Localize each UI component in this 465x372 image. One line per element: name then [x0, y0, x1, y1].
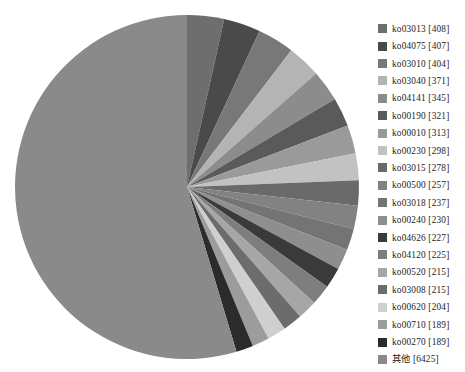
legend-item-label: ko04075 [407]: [392, 41, 449, 51]
legend-color-swatch: [378, 338, 387, 347]
legend-item-label: ko04626 [227]: [392, 233, 449, 243]
legend-item[interactable]: ko03010 [404]: [378, 55, 465, 72]
legend-color-swatch: [378, 76, 387, 85]
legend-item[interactable]: ko00500 [257]: [378, 177, 465, 194]
legend-item[interactable]: ko03018 [237]: [378, 194, 465, 211]
legend-item-label: ko00500 [257]: [392, 180, 449, 190]
legend-item-label: ko00520 [215]: [392, 267, 449, 277]
legend-item-label: ko00010 [313]: [392, 128, 449, 138]
legend-item[interactable]: ko00520 [215]: [378, 264, 465, 281]
pie-svg: [0, 0, 372, 372]
legend-item-label: ko03015 [278]: [392, 163, 449, 173]
legend-item-label: ko00230 [298]: [392, 146, 449, 156]
legend-item-label: ko03013 [408]: [392, 24, 449, 34]
legend-item[interactable]: ko04075 [407]: [378, 37, 465, 54]
legend-item[interactable]: 其他 [6425]: [378, 351, 465, 368]
legend-color-swatch: [378, 59, 387, 68]
legend-item-label: ko00190 [321]: [392, 111, 449, 121]
legend-item-label: ko03010 [404]: [392, 59, 449, 69]
legend-item[interactable]: ko00240 [230]: [378, 211, 465, 228]
chart-legend: ko03013 [408]ko04075 [407]ko03010 [404]k…: [378, 20, 465, 368]
legend-item[interactable]: ko00010 [313]: [378, 124, 465, 141]
legend-item-label: 其他 [6425]: [392, 354, 439, 364]
legend-color-swatch: [378, 146, 387, 155]
pie-plot-area: [0, 0, 372, 372]
legend-color-swatch: [378, 268, 387, 277]
legend-item-label: ko03040 [371]: [392, 76, 449, 86]
legend-item-label: ko00620 [204]: [392, 302, 449, 312]
legend-color-swatch: [378, 198, 387, 207]
legend-item[interactable]: ko00230 [298]: [378, 142, 465, 159]
legend-color-swatch: [378, 163, 387, 172]
legend-item[interactable]: ko03040 [371]: [378, 72, 465, 89]
legend-color-swatch: [378, 285, 387, 294]
legend-item-label: ko00240 [230]: [392, 215, 449, 225]
legend-color-swatch: [378, 129, 387, 138]
legend-color-swatch: [378, 250, 387, 259]
pie-slice-group: [15, 15, 359, 359]
pie-chart-figure: ko03013 [408]ko04075 [407]ko03010 [404]k…: [0, 0, 465, 372]
legend-color-swatch: [378, 303, 387, 312]
legend-color-swatch: [378, 94, 387, 103]
legend-item-label: ko00710 [189]: [392, 320, 449, 330]
legend-item[interactable]: ko00620 [204]: [378, 299, 465, 316]
legend-color-swatch: [378, 320, 387, 329]
legend-item-label: ko04120 [225]: [392, 250, 449, 260]
legend-color-swatch: [378, 24, 387, 33]
legend-item-label: ko04141 [345]: [392, 93, 449, 103]
legend-color-swatch: [378, 181, 387, 190]
legend-item[interactable]: ko04120 [225]: [378, 246, 465, 263]
legend-color-swatch: [378, 355, 387, 364]
legend-item-label: ko03018 [237]: [392, 198, 449, 208]
legend-item[interactable]: ko04141 [345]: [378, 90, 465, 107]
legend-item-label: ko03008 [215]: [392, 285, 449, 295]
legend-item[interactable]: ko00710 [189]: [378, 316, 465, 333]
legend-color-swatch: [378, 111, 387, 120]
legend-item[interactable]: ko03015 [278]: [378, 159, 465, 176]
legend-item-label: ko00270 [189]: [392, 337, 449, 347]
legend-item[interactable]: ko03013 [408]: [378, 20, 465, 37]
legend-item[interactable]: ko00270 [189]: [378, 333, 465, 350]
legend-color-swatch: [378, 233, 387, 242]
legend-color-swatch: [378, 42, 387, 51]
legend-item[interactable]: ko04626 [227]: [378, 229, 465, 246]
legend-item[interactable]: ko00190 [321]: [378, 107, 465, 124]
legend-color-swatch: [378, 216, 387, 225]
legend-item[interactable]: ko03008 [215]: [378, 281, 465, 298]
